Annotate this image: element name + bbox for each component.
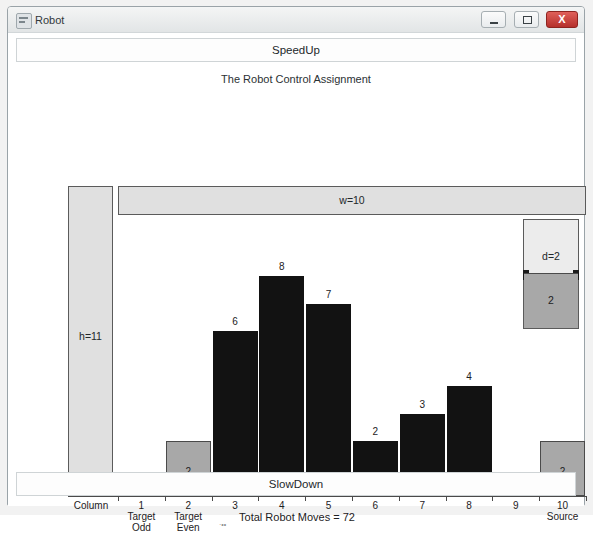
- bar-value-label: 6: [213, 316, 258, 327]
- stray-mark: ·••: [219, 521, 226, 528]
- bar-value-label: 2: [353, 426, 398, 437]
- robot-window: Robot X SpeedUp The Robot Control Assign…: [7, 6, 585, 506]
- tick-sublabel-text: Even: [158, 522, 218, 533]
- robot-grid-plot: h=11 w=10 d=2 2 26872342: [8, 59, 586, 504]
- window-content: SpeedUp The Robot Control Assignment h=1…: [8, 33, 584, 506]
- window-titlebar: Robot X: [8, 7, 584, 33]
- bar-column-5: 7: [306, 304, 351, 497]
- bar-value-label: 7: [306, 289, 351, 300]
- window-controls: X: [478, 11, 578, 29]
- maximize-button[interactable]: [514, 11, 539, 28]
- app-icon: [16, 13, 32, 29]
- tick-mark: [586, 496, 587, 501]
- slowdown-button[interactable]: SlowDown: [16, 472, 576, 496]
- maximize-icon: [515, 12, 538, 27]
- bar-value-label: 3: [400, 399, 445, 410]
- window-title: Robot: [35, 12, 64, 28]
- bar-value-label: 4: [447, 371, 492, 382]
- bar-column-4: 8: [259, 276, 304, 496]
- column-label: Column: [60, 500, 122, 511]
- bar-series: 26872342: [8, 59, 586, 496]
- close-icon: X: [547, 12, 577, 27]
- minimize-button[interactable]: [481, 11, 506, 28]
- bar-value-label: 8: [259, 261, 304, 272]
- tick-label-text: 10: [533, 500, 593, 511]
- minimize-icon: [482, 12, 505, 27]
- total-moves-label: Total Robot Moves = 72: [8, 511, 586, 523]
- close-button[interactable]: X: [546, 11, 578, 28]
